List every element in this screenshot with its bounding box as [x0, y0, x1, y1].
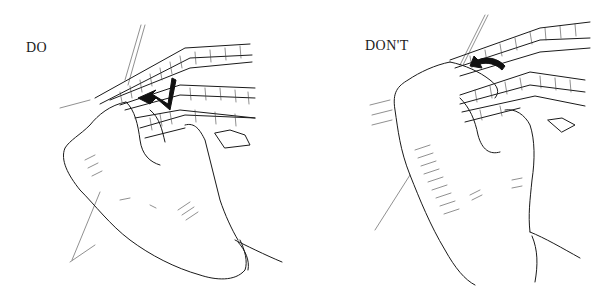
illustration-do-hand-mesh — [0, 0, 300, 305]
panel-dont: DON'T — [300, 0, 609, 305]
panel-do: DO — [0, 0, 300, 305]
illustration-dont-hand-mesh — [300, 0, 609, 305]
